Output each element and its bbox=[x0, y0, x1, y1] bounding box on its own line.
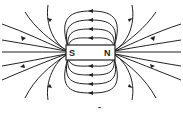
north-pole-label: N bbox=[104, 48, 111, 58]
caption-mark: - bbox=[98, 102, 101, 112]
south-pole-label: S bbox=[69, 48, 75, 58]
bar-magnet-field-diagram: S N - bbox=[0, 0, 183, 113]
